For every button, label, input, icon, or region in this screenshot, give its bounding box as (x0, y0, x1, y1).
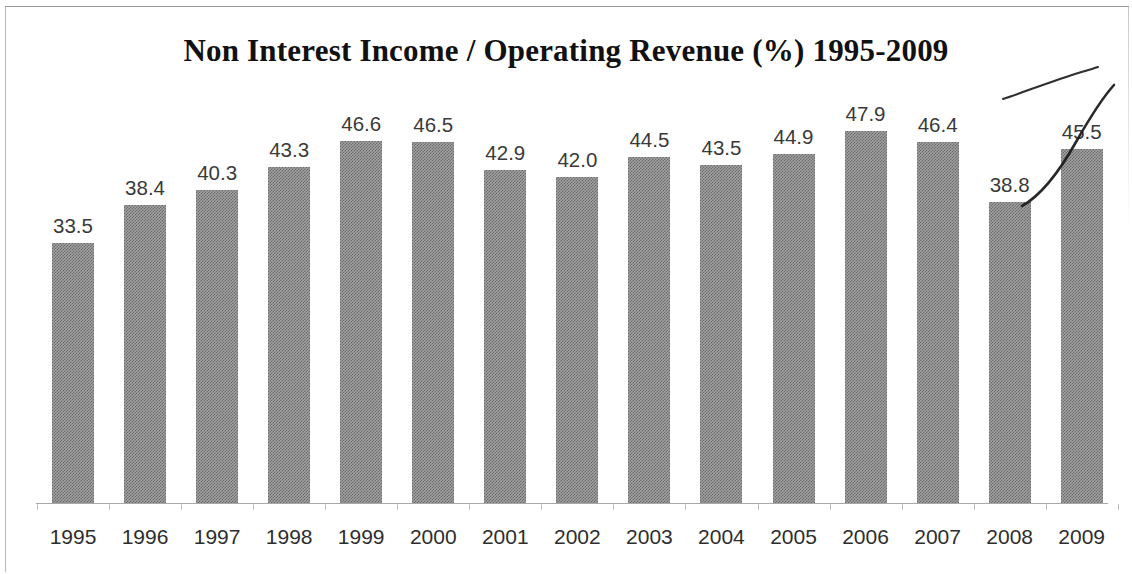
bar-2007 (917, 142, 959, 503)
bar-value-label-2000: 46.5 (398, 113, 468, 137)
bar-value-label-1997: 40.3 (182, 161, 252, 185)
bar-1995 (52, 243, 94, 503)
x-axis-label-2001: 2001 (467, 525, 543, 549)
x-tick-1995 (37, 504, 38, 510)
x-axis-label-2008: 2008 (972, 525, 1048, 549)
bar-1997 (196, 190, 238, 503)
x-tick-2001 (469, 504, 470, 510)
x-tick-2003 (613, 504, 614, 510)
x-tick-2004 (685, 504, 686, 510)
bar-2009 (1061, 149, 1103, 503)
x-axis-label-1995: 1995 (35, 525, 111, 549)
x-axis-label-1996: 1996 (107, 525, 183, 549)
bar-2002 (556, 177, 598, 503)
x-axis-label-2000: 2000 (395, 525, 471, 549)
bar-2006 (845, 131, 887, 503)
bar-value-label-2004: 43.5 (686, 136, 756, 160)
bar-value-label-2002: 42.0 (542, 148, 612, 172)
x-tick-2005 (758, 504, 759, 510)
x-axis-label-1997: 1997 (179, 525, 255, 549)
x-axis-label-2002: 2002 (539, 525, 615, 549)
x-tick-1997 (181, 504, 182, 510)
x-tick-2000 (397, 504, 398, 510)
bar-2005 (773, 154, 815, 503)
x-axis-label-2009: 2009 (1044, 525, 1120, 549)
bar-value-label-1996: 38.4 (110, 176, 180, 200)
bar-value-label-2007: 46.4 (903, 113, 973, 137)
x-axis-label-2006: 2006 (828, 525, 904, 549)
x-tick-1998 (253, 504, 254, 510)
x-axis-label-1998: 1998 (251, 525, 327, 549)
bar-value-label-2009: 45.5 (1047, 120, 1117, 144)
bar-2000 (412, 142, 454, 503)
bar-1996 (124, 205, 166, 503)
x-tick-2002 (541, 504, 542, 510)
bar-value-label-2003: 44.5 (614, 128, 684, 152)
x-axis-label-2005: 2005 (756, 525, 832, 549)
x-tick-2009 (1046, 504, 1047, 510)
bar-1998 (268, 167, 310, 503)
bar-2003 (628, 157, 670, 503)
bar-2001 (484, 170, 526, 503)
bar-value-label-2005: 44.9 (759, 125, 829, 149)
x-axis-label-1999: 1999 (323, 525, 399, 549)
x-axis-label-2007: 2007 (900, 525, 976, 549)
bar-value-label-1999: 46.6 (326, 112, 396, 136)
x-tick-2007 (902, 504, 903, 510)
x-tick-end (1118, 504, 1119, 510)
x-tick-2008 (974, 504, 975, 510)
x-tick-2006 (830, 504, 831, 510)
bar-value-label-1995: 33.5 (38, 214, 108, 238)
x-axis-label-2003: 2003 (611, 525, 687, 549)
plot-area: 33.538.440.343.346.646.542.942.044.543.5… (0, 0, 1132, 574)
x-axis-label-2004: 2004 (683, 525, 759, 549)
bar-1999 (340, 141, 382, 503)
chart-screenshot: Non Interest Income / Operating Revenue … (0, 0, 1132, 574)
bar-2008 (989, 202, 1031, 503)
x-tick-1996 (109, 504, 110, 510)
x-tick-1999 (325, 504, 326, 510)
bar-value-label-2001: 42.9 (470, 141, 540, 165)
bar-value-label-2008: 38.8 (975, 173, 1045, 197)
bar-2004 (700, 165, 742, 503)
x-axis-line (36, 503, 1108, 504)
bar-value-label-1998: 43.3 (254, 138, 324, 162)
bar-value-label-2006: 47.9 (831, 102, 901, 126)
